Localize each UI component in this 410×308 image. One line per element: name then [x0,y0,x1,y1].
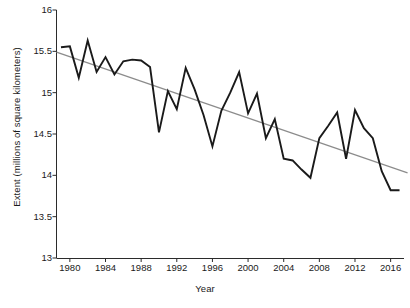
data-series-line [61,41,400,191]
x-axis-tick-labels: 1980198419881992199620002004200820122016 [0,262,410,276]
x-axis-tick-label: 2004 [264,262,304,273]
y-axis-ticks [53,10,57,258]
x-axis-title: Year [0,283,410,294]
x-axis-tick-label: 2016 [371,262,410,273]
axis-lines [57,10,405,259]
x-axis-tick-label: 2000 [228,262,268,273]
x-axis-tick-label: 2008 [299,262,339,273]
x-axis-tick-label: 1996 [192,262,232,273]
x-axis-tick-label: 1984 [86,262,126,273]
x-axis-tick-label: 1992 [157,262,197,273]
sea-ice-extent-chart: Extent (millions of square kilometers) 1… [0,0,410,308]
x-axis-tick-label: 1988 [121,262,161,273]
x-axis-tick-label: 2012 [335,262,375,273]
x-axis-tick-label: 1980 [50,262,90,273]
